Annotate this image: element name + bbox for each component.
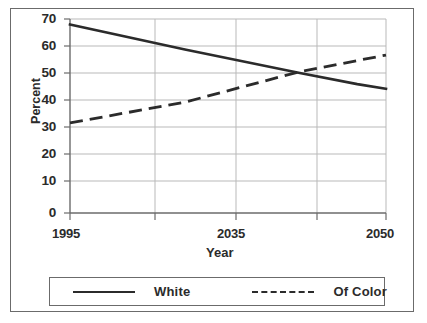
legend-swatch-solid-line-icon xyxy=(73,287,135,297)
legend-label-of-color: Of Color xyxy=(333,284,387,299)
figure-frame xyxy=(10,8,414,312)
legend-label-white: White xyxy=(154,284,190,299)
legend-entry-white: White xyxy=(73,284,190,299)
legend-swatch-dashed-line-icon xyxy=(252,287,314,297)
legend-entry-of-color: Of Color xyxy=(252,284,387,299)
chart-legend: White Of Color xyxy=(49,277,385,306)
